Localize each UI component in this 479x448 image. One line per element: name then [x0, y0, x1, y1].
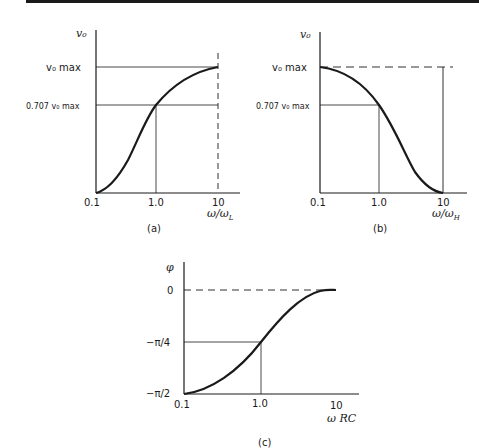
- panel-c-y-label: φ: [166, 261, 174, 274]
- panel-c-ytick-0: 0: [167, 285, 173, 296]
- panel-a-magnitude-curve: [96, 67, 218, 193]
- panel-b-x-label: ω/ωH: [432, 207, 461, 222]
- panel-b-ytick-halfpower: 0.707 v₀ max: [256, 102, 310, 111]
- panel-a: [96, 30, 240, 193]
- panel-b-caption: (b): [373, 223, 387, 234]
- panel-c-x-label: ω RC: [327, 412, 357, 425]
- panel-b-xtick-1: 1.0: [371, 197, 387, 208]
- panel-c-ytick-2: −π/2: [146, 388, 170, 399]
- panel-c: [184, 262, 359, 394]
- panel-a-x-label: ω/ωL: [207, 207, 234, 222]
- panel-b-xtick-0: 0.1: [310, 197, 326, 208]
- panel-b-y-label: v₀: [300, 28, 311, 41]
- panel-c-ytick-1: −π/4: [146, 337, 170, 348]
- panel-a-ytick-max: v₀ max: [46, 62, 81, 73]
- panel-c-xtick-1: 1.0: [252, 398, 268, 409]
- panel-a-ytick-halfpower: 0.707 v₀ max: [26, 102, 80, 111]
- panel-c-xtick-0: 0.1: [174, 399, 190, 410]
- frequency-response-figure: v₀ v₀ max 0.707 v₀ max 0.1 1.0 10 ω/ωL (…: [0, 0, 479, 448]
- panel-c-xtick-2: 10: [330, 400, 343, 411]
- panel-a-caption: (a): [147, 223, 161, 234]
- panel-a-xtick-1: 1.0: [148, 197, 164, 208]
- panel-a-y-label: v₀: [76, 27, 87, 40]
- panel-a-xtick-0: 0.1: [84, 197, 100, 208]
- top-rule: [26, 0, 479, 3]
- panel-b-magnitude-curve: [320, 67, 443, 193]
- panel-c-caption: (c): [258, 437, 271, 448]
- panel-b-ytick-max: v₀ max: [272, 62, 307, 73]
- panel-b: [320, 32, 467, 193]
